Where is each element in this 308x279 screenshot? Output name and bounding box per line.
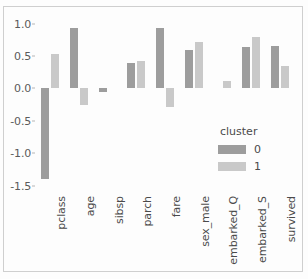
legend-entries: 01 xyxy=(218,143,298,173)
x-axis-label-sex_male: sex_male xyxy=(199,196,212,247)
y-axis-tick-mark xyxy=(32,56,35,57)
bar-embarked_Q-cluster-1 xyxy=(223,81,231,89)
y-axis-tick-mark xyxy=(32,120,35,121)
legend-item-0: 0 xyxy=(218,143,298,156)
bar-embarked_S-cluster-0 xyxy=(242,47,250,88)
y-axis-tick-mark xyxy=(32,185,35,186)
y-axis-tick-label: -1.0 xyxy=(10,147,31,160)
legend-item-1: 1 xyxy=(218,160,298,173)
y-axis-tick-label: 0.5 xyxy=(14,50,31,63)
bar-age-cluster-1 xyxy=(80,88,88,104)
x-axis-label-fare: fare xyxy=(170,196,183,217)
bar-sex_male-cluster-0 xyxy=(185,50,193,89)
bar-sibsp-cluster-0 xyxy=(99,88,107,92)
x-axis-label-embarked_S: embarked_S xyxy=(256,196,269,263)
legend: cluster 01 xyxy=(218,125,298,177)
bar-pclass-cluster-1 xyxy=(51,54,59,88)
y-axis-tick-mark xyxy=(32,88,35,89)
legend-title: cluster xyxy=(218,125,298,138)
y-axis-tick-mark xyxy=(32,153,35,154)
y-axis-tick-label: 0.0 xyxy=(14,82,31,95)
x-axis-label-sibsp: sibsp xyxy=(113,196,126,224)
bar-parch-cluster-0 xyxy=(127,63,135,89)
bar-survived-cluster-1 xyxy=(281,66,289,89)
legend-swatch-1 xyxy=(218,162,246,171)
x-axis-label-embarked_Q: embarked_Q xyxy=(227,196,240,265)
legend-swatch-0 xyxy=(218,145,246,154)
bar-fare-cluster-0 xyxy=(156,28,164,88)
x-axis-label-parch: parch xyxy=(141,196,154,227)
bar-fare-cluster-1 xyxy=(166,88,174,106)
y-axis-tick-label: 1.0 xyxy=(14,17,31,30)
legend-label-0: 0 xyxy=(254,143,261,156)
bar-embarked_S-cluster-1 xyxy=(252,37,260,88)
y-axis-tick-label: -1.5 xyxy=(10,179,31,192)
bar-parch-cluster-1 xyxy=(137,61,145,88)
bar-pclass-cluster-0 xyxy=(41,88,49,179)
legend-label-1: 1 xyxy=(254,160,261,173)
bar-age-cluster-0 xyxy=(70,28,78,89)
chart-container: 1.00.50.0-0.5-1.0-1.5 pclassagesibspparc… xyxy=(0,0,308,279)
x-axis-labels: pclassagesibspparchfaresex_maleembarked_… xyxy=(36,196,294,276)
y-axis-tick-mark xyxy=(32,23,35,24)
bar-survived-cluster-0 xyxy=(271,46,279,89)
bar-sex_male-cluster-1 xyxy=(195,42,203,89)
x-axis-label-survived: survived xyxy=(285,196,298,242)
x-axis-label-pclass: pclass xyxy=(55,196,68,230)
y-axis-tick-label: -0.5 xyxy=(10,114,31,127)
x-axis-label-age: age xyxy=(84,196,97,216)
